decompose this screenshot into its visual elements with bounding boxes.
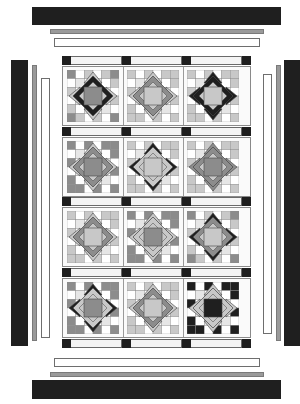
sashing-strip <box>70 197 122 206</box>
sashing-row <box>0 339 300 348</box>
top-middle-border <box>50 29 264 34</box>
bottom-inner-border <box>54 358 260 367</box>
sashing-strip <box>190 127 242 136</box>
vertical-sashing <box>123 279 124 337</box>
sashing-strip <box>70 127 122 136</box>
sashing-row <box>0 197 300 206</box>
sashing-strip <box>130 56 182 65</box>
left-inner-border <box>41 78 50 338</box>
vertical-sashing <box>183 208 184 266</box>
cornerstone-square <box>242 339 251 348</box>
sashing-strip <box>190 339 242 348</box>
vertical-sashing <box>123 208 124 266</box>
sashing-strip <box>190 197 242 206</box>
top-inner-border <box>54 38 260 47</box>
quilt-block <box>67 282 119 334</box>
block-row <box>62 137 251 197</box>
cornerstone-square <box>122 197 131 206</box>
cornerstone-square <box>62 268 71 277</box>
cornerstone-square <box>122 127 131 136</box>
vertical-sashing <box>183 279 184 337</box>
sashing-strip <box>70 268 122 277</box>
quilt-block <box>127 211 179 263</box>
cornerstone-square <box>182 268 191 277</box>
sashing-strip <box>130 197 182 206</box>
bottom-middle-border <box>50 372 264 377</box>
block-row <box>62 66 251 126</box>
quilt-block <box>67 211 119 263</box>
cornerstone-square <box>242 127 251 136</box>
quilt-block <box>127 70 179 122</box>
cornerstone-square <box>62 197 71 206</box>
cornerstone-square <box>62 339 71 348</box>
sashing-row <box>0 56 300 65</box>
block-row <box>62 278 251 338</box>
quilt-block <box>187 282 239 334</box>
cornerstone-square <box>122 268 131 277</box>
cornerstone-square <box>62 56 71 65</box>
top-outer-border <box>32 7 281 25</box>
sashing-strip <box>190 268 242 277</box>
sashing-strip <box>70 56 122 65</box>
cornerstone-square <box>62 127 71 136</box>
vertical-sashing <box>123 67 124 125</box>
sashing-strip <box>130 268 182 277</box>
sashing-row <box>0 127 300 136</box>
vertical-sashing <box>123 138 124 196</box>
cornerstone-square <box>182 197 191 206</box>
quilt-block <box>67 141 119 193</box>
quilt-block <box>187 70 239 122</box>
vertical-sashing <box>183 67 184 125</box>
quilt-block <box>127 282 179 334</box>
cornerstone-square <box>242 268 251 277</box>
bottom-outer-border <box>32 380 281 399</box>
vertical-sashing <box>183 138 184 196</box>
sashing-strip <box>130 339 182 348</box>
cornerstone-square <box>122 56 131 65</box>
cornerstone-square <box>182 127 191 136</box>
quilt-block <box>187 141 239 193</box>
cornerstone-square <box>182 339 191 348</box>
quilt-block <box>187 211 239 263</box>
cornerstone-square <box>242 56 251 65</box>
sashing-row <box>0 268 300 277</box>
cornerstone-square <box>182 56 191 65</box>
sashing-strip <box>190 56 242 65</box>
sashing-strip <box>130 127 182 136</box>
sashing-strip <box>70 339 122 348</box>
block-row <box>62 207 251 267</box>
quilt-block <box>127 141 179 193</box>
cornerstone-square <box>122 339 131 348</box>
quilt-block <box>67 70 119 122</box>
cornerstone-square <box>242 197 251 206</box>
